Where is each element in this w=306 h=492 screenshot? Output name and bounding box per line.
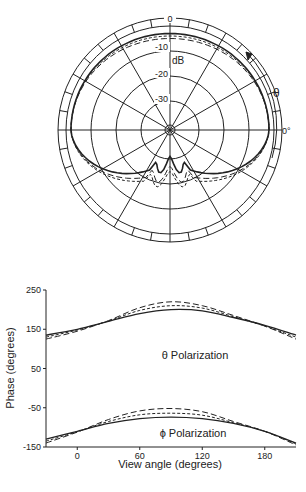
label-db-unit: dB: [172, 55, 185, 66]
svg-text:250: 250: [26, 285, 41, 295]
label-theta: θ: [273, 86, 280, 100]
label-minus30db: -30: [155, 94, 168, 104]
theta-polarization-label: θ Polarization: [162, 349, 229, 361]
svg-text:0: 0: [75, 451, 80, 461]
phase-curve-long-dash: [46, 302, 296, 339]
polar-spokes: [66, 26, 274, 234]
svg-text:50: 50: [31, 364, 41, 374]
theta-arrow-arc: [246, 52, 277, 158]
svg-text:-150: -150: [23, 442, 41, 452]
svg-text:150: 150: [26, 324, 41, 334]
figure: 0 -10 dB -20 -30 θ 0° 25015050-50-150 06…: [0, 0, 306, 492]
x-axis-label: View angle (degrees): [118, 458, 222, 470]
phase-curves: [46, 302, 296, 445]
label-zero-deg: 0°: [282, 126, 291, 136]
y-axis-label: Phase (degrees): [4, 327, 16, 408]
svg-text:180: 180: [257, 451, 272, 461]
phi-polarization-label: ϕ Polarization: [160, 427, 227, 439]
phase-plot: [43, 290, 296, 450]
label-minus20db: -20: [155, 69, 168, 79]
phase-curve-solid: [46, 309, 296, 335]
theta-arrow-head: [246, 52, 252, 60]
svg-text:-50: -50: [28, 403, 41, 413]
phase-curve-short-dash: [46, 306, 296, 337]
label-0db: 0: [167, 14, 172, 24]
label-minus10db: -10: [155, 42, 168, 52]
phase-labels: 25015050-50-150 060120180 View angle (de…: [4, 285, 272, 470]
